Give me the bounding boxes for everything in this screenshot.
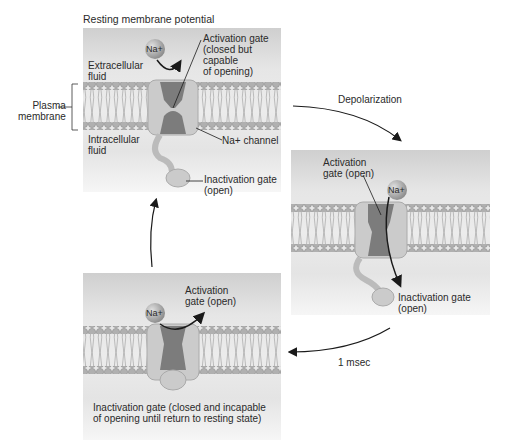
activation-gate-label-1: Activation gate(closed butcapableof open… — [203, 33, 269, 77]
depolarization-label: Depolarization — [338, 94, 402, 105]
inactivation-gate-label-2: Inactivation gate(open) — [398, 292, 471, 314]
na-ion-label-1: Na+ — [146, 44, 163, 55]
na-channel-label: Na+ channel — [222, 135, 278, 146]
return-arrow — [151, 200, 156, 267]
inactivation-gate-label-1: Inactivation gate(open) — [204, 174, 277, 196]
inactivation-arrow — [290, 328, 390, 352]
intracellular-label: Intracellularfluid — [88, 134, 140, 156]
na-channel-1 — [148, 80, 198, 187]
na-ion-label-3: Na+ — [146, 308, 163, 319]
na-channel-2 — [355, 202, 407, 306]
time-label: 1 msec — [338, 357, 370, 368]
plasma-membrane-label: Plasmamembrane — [18, 100, 66, 122]
activation-gate-label-2: Activationgate (open) — [323, 157, 374, 179]
na-ion-label-2: Na+ — [388, 185, 405, 196]
inactivation-gate-label-3: Inactivation gate (closed and incapableo… — [93, 402, 266, 424]
na-channel-3 — [147, 324, 199, 390]
activation-gate-label-3: Activationgate (open) — [185, 285, 236, 307]
extracellular-label: Extracellularfluid — [88, 60, 143, 82]
depolarization-arrow — [293, 106, 400, 140]
